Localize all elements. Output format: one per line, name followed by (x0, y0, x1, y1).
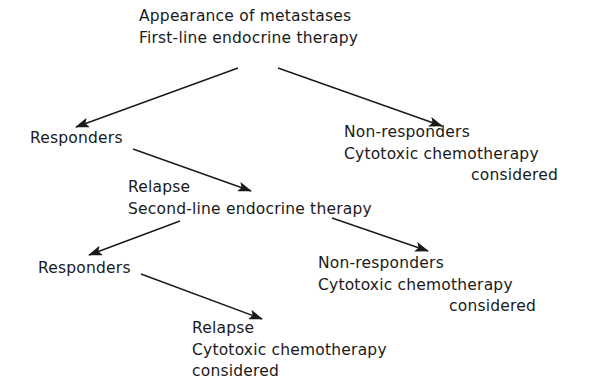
level2-responders-label: Responders (38, 258, 131, 280)
arrow-responders2-to-relapse2 (141, 274, 262, 319)
level1-nonresponders-line2: Cytotoxic chemotherapy (344, 144, 558, 166)
arrow-root-to-responders (76, 68, 238, 127)
level2-relapse-line1: Relapse (128, 177, 372, 199)
level2-nonresponders-line2: Cytotoxic chemotherapy (318, 275, 536, 297)
arrow-relapse-to-nonresponders (332, 218, 428, 251)
node-level2-nonresponders: Non-responders Cytotoxic chemotherapy co… (318, 253, 536, 318)
level3-relapse-line1: Relapse (192, 318, 387, 340)
level2-relapse-line2: Second-line endocrine therapy (128, 199, 372, 221)
level3-relapse-line2: Cytotoxic chemotherapy (192, 340, 387, 362)
level2-nonresponders-line1: Non-responders (318, 253, 536, 275)
node-level1-nonresponders: Non-responders Cytotoxic chemotherapy co… (344, 122, 558, 187)
node-root: Appearance of metastases First-line endo… (139, 6, 358, 49)
level1-nonresponders-line1: Non-responders (344, 122, 558, 144)
node-level3-relapse: Relapse Cytotoxic chemotherapy considere… (192, 318, 387, 383)
level1-nonresponders-line3: considered (344, 165, 558, 187)
arrow-root-to-nonresponders (278, 68, 442, 126)
root-line2: First-line endocrine therapy (139, 28, 358, 50)
node-level2-responders: Responders (38, 258, 131, 280)
level3-relapse-line3: considered (192, 361, 387, 383)
node-level1-responders: Responders (30, 128, 123, 150)
node-level2-relapse: Relapse Second-line endocrine therapy (128, 177, 372, 220)
treatment-flow-diagram: Appearance of metastases First-line endo… (0, 0, 589, 391)
root-line1: Appearance of metastases (139, 6, 358, 28)
level2-nonresponders-line3: considered (318, 296, 536, 318)
level1-responders-label: Responders (30, 128, 123, 150)
arrow-relapse-to-responders (89, 221, 180, 255)
